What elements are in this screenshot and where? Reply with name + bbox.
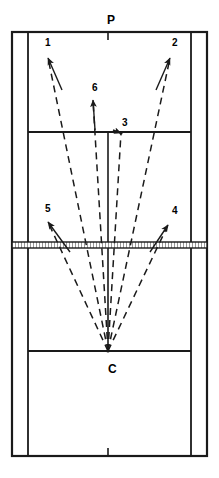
label-player-position-P: P — [107, 14, 115, 26]
label-shot-2: 2 — [172, 38, 178, 48]
label-centre-position-C: C — [108, 363, 117, 375]
net-line — [12, 242, 207, 248]
pointer-arrows — [48, 58, 170, 252]
pointer-arrow-2 — [156, 58, 170, 90]
shuttle-origin-dot — [106, 349, 109, 352]
shuttle-trajectories — [48, 58, 170, 351]
pointer-arrow-6 — [93, 100, 95, 130]
diagram-canvas: P C 1 2 3 4 5 6 — [0, 0, 219, 478]
label-shot-3: 3 — [122, 118, 128, 128]
badminton-court-svg — [0, 0, 219, 478]
pointer-arrow-1 — [48, 58, 62, 90]
label-shot-6: 6 — [92, 83, 98, 93]
net-band — [12, 242, 207, 248]
label-shot-5: 5 — [45, 204, 51, 214]
label-shot-4: 4 — [172, 206, 178, 216]
label-shot-1: 1 — [45, 38, 51, 48]
target-dot-shot-3 — [119, 131, 122, 134]
